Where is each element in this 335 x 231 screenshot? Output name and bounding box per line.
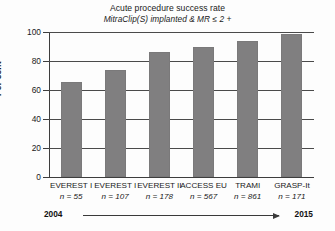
chart-subtitle: MitraClip(S) implanted & MR ≤ 2 + — [0, 14, 335, 25]
x-axis-labels: EVEREST In = 55EVEREST In = 107EVEREST I… — [49, 180, 314, 204]
bar — [281, 34, 302, 177]
bar — [193, 47, 214, 178]
y-tick-label: 100 — [21, 27, 41, 37]
x-axis-line — [49, 177, 314, 178]
chart-figure: Acute procedure success rate MitraClip(S… — [0, 0, 335, 231]
bars-layer — [49, 32, 314, 177]
y-tick-label: 0 — [21, 172, 41, 182]
y-tick-label: 40 — [21, 114, 41, 124]
x-tick-label-name: GRASP-It — [274, 181, 310, 190]
y-tick-label: 80 — [21, 56, 41, 66]
timeline-start-year: 2004 — [44, 209, 62, 219]
y-tick-label: 60 — [21, 85, 41, 95]
bar — [149, 52, 170, 177]
title-block: Acute procedure success rate MitraClip(S… — [0, 3, 335, 25]
bar — [61, 82, 82, 177]
x-tick-label-n: n = 171 — [266, 191, 318, 202]
timeline: 2004 2015 — [40, 208, 315, 224]
x-tick-label: GRASP-Itn = 171 — [266, 180, 318, 202]
x-tick-label-name: TRAMI — [235, 181, 260, 190]
bar — [237, 41, 258, 177]
x-tick-label-name: ACCESS EU — [180, 181, 227, 190]
chart-title: Acute procedure success rate — [0, 3, 335, 14]
x-tick-label-name: EVEREST I — [50, 181, 92, 190]
timeline-end-year: 2015 — [295, 209, 313, 219]
y-tick-label: 20 — [21, 143, 41, 153]
bar — [105, 70, 126, 177]
plot-area — [49, 32, 314, 177]
x-tick-label-name: EVEREST I — [94, 181, 136, 190]
timeline-arrow-icon — [83, 215, 279, 216]
x-tick-label-name: EVEREST II — [137, 181, 181, 190]
y-axis-title: Per cent — [0, 61, 3, 96]
